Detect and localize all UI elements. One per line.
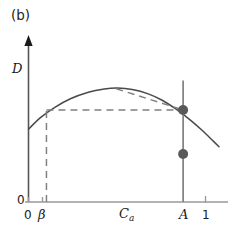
upper-point-at-A (178, 105, 188, 115)
axis-group (24, 35, 228, 203)
lower-point-at-A (178, 149, 188, 159)
series-demand-curve (29, 88, 220, 147)
plot-canvas (0, 0, 242, 232)
series-group (29, 80, 220, 202)
y-axis-arrow-icon (24, 35, 32, 46)
figure-panel-b: (b) D 0 0 β Ca A 1 (0, 0, 242, 232)
